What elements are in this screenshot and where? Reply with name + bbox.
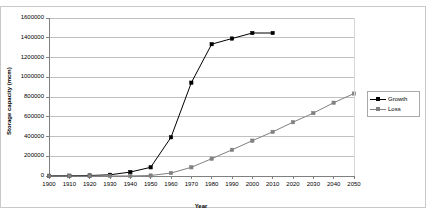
legend-item-loss[interactable]: Loss [370, 104, 417, 114]
legend-swatch-icon [370, 95, 386, 104]
y-tick-label: 800000 [2, 93, 44, 99]
y-tick-label: 1200000 [2, 54, 44, 60]
data-point-marker [88, 174, 91, 177]
y-tick-label: 400000 [2, 133, 44, 139]
data-point-marker [190, 166, 193, 169]
data-point-marker [271, 31, 274, 34]
y-tick-label: 600000 [2, 113, 44, 119]
y-axis-title: Storage capacity (mcm) [6, 73, 12, 135]
chart-legend: GrowthLoss [367, 91, 420, 117]
data-point-marker [291, 120, 294, 123]
data-point-marker [230, 37, 233, 40]
data-point-marker [251, 31, 254, 34]
data-point-marker [190, 81, 193, 84]
data-point-marker [271, 130, 274, 133]
data-point-marker [47, 174, 50, 177]
data-point-marker [332, 101, 335, 104]
data-point-marker [129, 170, 132, 173]
data-point-marker [68, 174, 71, 177]
series-line-loss [49, 94, 354, 176]
y-tick-label: 1600000 [2, 14, 44, 20]
data-point-marker [230, 148, 233, 151]
legend-label: Loss [388, 106, 401, 112]
y-tick-label: 200000 [2, 152, 44, 158]
chart-frame: Storage capacity (mcm) Year 020000040000… [0, 6, 426, 208]
y-tick-label: 0 [2, 172, 44, 178]
chart-container: Storage capacity (mcm) Year 020000040000… [0, 0, 427, 215]
data-point-marker [149, 174, 152, 177]
plot-area [1, 7, 427, 209]
data-point-marker [251, 139, 254, 142]
y-tick-label: 1000000 [2, 73, 44, 79]
data-point-marker [169, 171, 172, 174]
y-tick-label: 1400000 [2, 34, 44, 40]
data-point-marker [210, 42, 213, 45]
data-point-marker [129, 174, 132, 177]
data-point-marker [312, 111, 315, 114]
series-line-growth [49, 33, 273, 176]
data-point-marker [108, 174, 111, 177]
data-point-marker [149, 166, 152, 169]
data-point-marker [210, 157, 213, 160]
data-point-marker [169, 136, 172, 139]
legend-item-growth[interactable]: Growth [370, 94, 417, 104]
legend-swatch-icon [370, 105, 386, 114]
x-axis-title: Year [46, 203, 356, 209]
x-tick-label: 2050 [341, 181, 367, 187]
legend-label: Growth [388, 96, 407, 102]
